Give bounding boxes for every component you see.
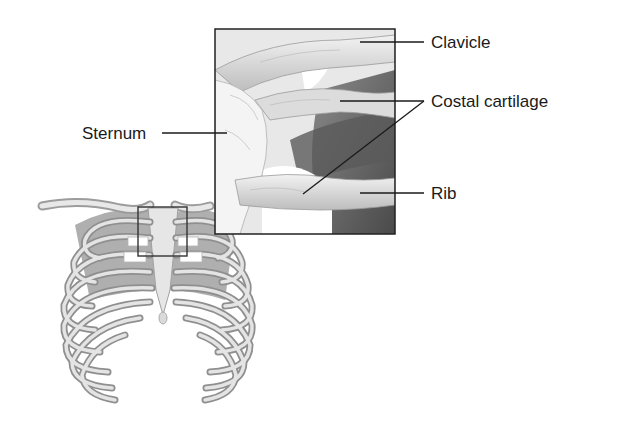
sternocostal-diagram: Clavicle Costal cartilage Sternum Rib: [0, 0, 620, 423]
diagram-artwork: [0, 0, 620, 423]
label-rib: Rib: [431, 185, 457, 202]
label-costal-cartilage: Costal cartilage: [431, 93, 548, 110]
label-sternum: Sternum: [82, 125, 146, 142]
inset-magnified-view: [215, 29, 395, 234]
label-clavicle: Clavicle: [431, 34, 491, 51]
